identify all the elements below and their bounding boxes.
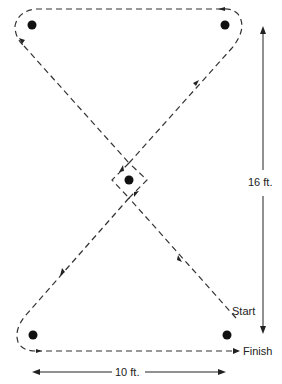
arrow-icon [36, 349, 42, 353]
arrow-icon [119, 165, 124, 172]
pylon-bottom-left [29, 331, 38, 340]
arrow-icon [233, 348, 240, 354]
pylons [28, 21, 232, 340]
height-dimension-label: 16 ft. [247, 177, 273, 188]
width-dimension-label: 10 ft. [114, 367, 140, 378]
finish-label: Finish [243, 346, 272, 357]
pylon-top-right [221, 21, 230, 30]
pylon-bottom-right [223, 331, 232, 340]
start-label: Start [232, 306, 255, 317]
arrow-icon [134, 191, 139, 197]
arrow-icon [60, 268, 65, 276]
course-diagram [0, 0, 282, 384]
arrow-icon [218, 7, 225, 11]
pylon-top-left [28, 21, 37, 30]
pylon-center [125, 176, 134, 185]
